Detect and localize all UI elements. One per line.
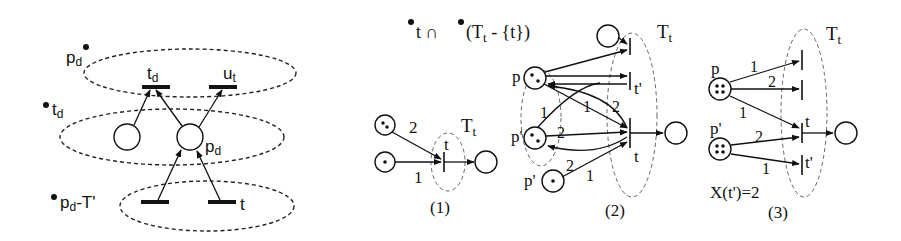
bullet-icon [408,19,414,25]
weight: 1 [586,167,594,184]
label-pd: pd [205,137,221,158]
weight: 1 [739,104,747,121]
label-p-prime: p' [710,119,722,138]
label-p: p [711,59,720,78]
bullet-icon [51,194,57,200]
label-td: td [147,64,158,85]
place-output [835,122,857,144]
label-Tt: Tt [826,23,842,47]
place-output [475,151,497,173]
panel-3: p p' t t' 1 2 1 2 1 Tt X(t')=2 (3) [709,23,857,222]
weight: 2 [566,157,574,174]
petri-net-figure: pd td ut td pd pd-T' t t ∩ (Tt - {t}) 2 … [0,0,901,241]
pd-postset-ellipse [84,49,296,97]
place-output [665,122,687,144]
label-t: t [805,112,810,131]
caption-3: (3) [768,203,788,222]
td-preset-ellipse [60,109,284,165]
weight: 2 [557,124,565,141]
arc [134,90,150,125]
label-pd-postset: pd [66,48,82,69]
bullet-icon [458,19,464,25]
label-ut: ut [223,64,236,85]
formula-part1: t ∩ [416,22,439,42]
label-t-prime: t' [805,153,813,172]
tt-ellipse [607,33,657,197]
weight: 2 [755,128,763,145]
label-t: t [444,135,449,154]
label-p-prime: p' [511,127,523,146]
tt-ellipse [781,29,827,197]
label-t: t [240,195,245,214]
arc [199,90,222,127]
left-panel: pd td ut td pd pd-T' t [43,44,296,231]
label-td-preset: td [52,100,63,121]
arc [197,151,220,200]
place-p [524,67,546,89]
place-left [114,124,140,150]
panel-2: p p' p' t' t 1 2 1 2 2 1 Tt (2) [511,21,687,220]
weight: 1 [583,98,591,115]
label-Tt: Tt [657,21,673,45]
arc [156,90,182,126]
weight: 2 [409,118,418,137]
label-p: p [512,67,521,86]
header-formula: t ∩ (Tt - {t}) [408,19,530,45]
pd-preset-ellipse [120,181,294,231]
panel-1: 2 1 t Tt (1) [375,115,497,217]
label-t-prime: t' [634,79,642,98]
arc [158,150,181,200]
place-pd [177,124,203,150]
weight: 2 [612,98,620,115]
place-p [709,78,731,100]
place-p-prime [524,127,546,149]
place-top [597,25,619,47]
bullet-icon [83,44,89,50]
weight: 1 [762,160,770,177]
weight: 1 [540,104,548,121]
label-pd-preset-minus: pd-T' [60,193,95,214]
caption-1: (1) [430,198,450,217]
bullet-icon [43,102,49,108]
caption-2: (2) [605,201,625,220]
label-p-prime-2: p' [524,171,536,190]
label-Tt: Tt [461,115,477,139]
label-t: t [634,147,639,166]
place-p-prime [709,138,731,160]
annotation-x-t-prime: X(t')=2 [710,183,759,202]
weight: 1 [414,168,423,187]
formula-part2: (Tt - {t}) [466,22,530,45]
weight: 2 [768,73,776,90]
weight: 1 [750,58,758,75]
